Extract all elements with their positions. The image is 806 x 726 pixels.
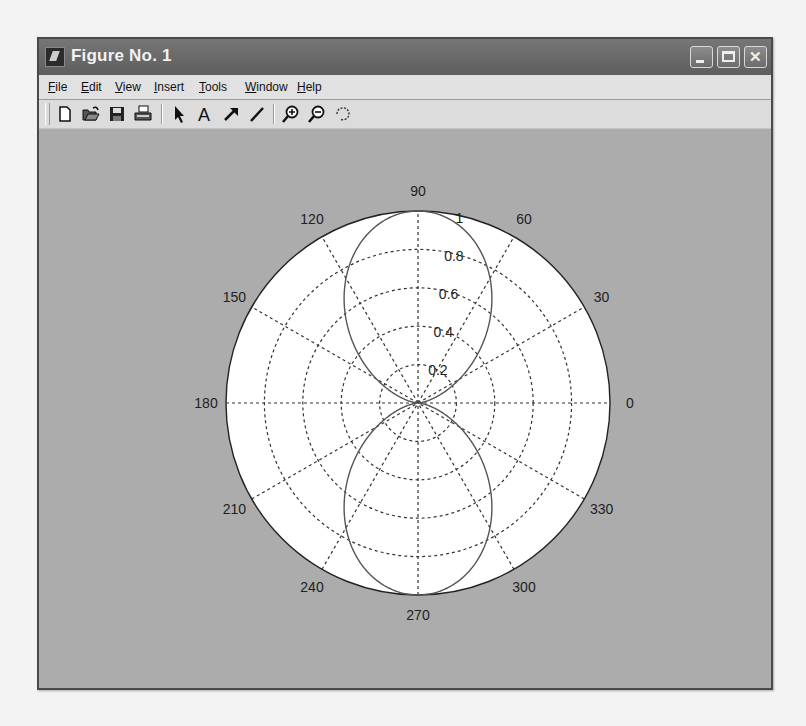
svg-text:A: A [198,105,210,124]
menu-file[interactable]: File [48,80,67,94]
menu-help[interactable]: Help [297,80,322,94]
menu-bar: FileEditViewInsertToolsWindowHelp [39,75,771,100]
toolbar-separator [273,104,275,124]
minimize-button[interactable] [690,46,713,68]
figure-canvas[interactable]: 03060901201501802102402703003300.20.40.6… [39,129,771,688]
angular-tick-label: 270 [406,607,430,623]
maximize-button[interactable] [717,46,740,68]
minimize-icon [696,60,704,63]
title-bar[interactable]: Figure No. 1 ✕ [39,39,771,75]
radial-tick-label: 0.6 [439,286,459,302]
radial-tick-label: 0.4 [434,324,454,340]
menu-edit[interactable]: Edit [81,80,102,94]
radial-tick-label: 0.8 [444,248,464,264]
radial-tick-label: 1 [455,210,463,226]
zoom-out-icon[interactable] [307,104,327,124]
save-icon[interactable] [107,104,127,124]
close-icon: ✕ [745,48,766,66]
angular-tick-label: 120 [300,211,324,227]
menu-tools[interactable]: Tools [199,80,227,94]
angular-tick-label: 30 [594,289,610,305]
insert-text-icon[interactable]: A [195,104,215,124]
maximize-icon [722,51,735,62]
menu-window[interactable]: Window [245,80,288,94]
print-icon[interactable] [133,104,153,124]
insert-arrow-icon[interactable] [221,104,241,124]
toolbar: A [39,100,771,129]
rotate-3d-icon[interactable] [333,104,353,124]
angular-tick-label: 330 [590,501,614,517]
insert-line-icon[interactable] [247,104,267,124]
angular-tick-label: 240 [300,579,324,595]
toolbar-grip[interactable] [45,103,50,125]
matlab-logo-icon [45,47,65,67]
menu-insert[interactable]: Insert [154,80,184,94]
polar-axes[interactable]: 03060901201501802102402703003300.20.40.6… [39,129,771,688]
new-figure-icon[interactable] [55,104,75,124]
open-file-icon[interactable] [81,104,101,124]
figure-window: Figure No. 1 ✕ FileEditViewInsertToolsWi… [37,37,773,690]
window-title: Figure No. 1 [71,46,172,66]
angular-tick-label: 180 [194,395,218,411]
angular-tick-label: 60 [516,211,532,227]
angular-tick-label: 90 [410,183,426,199]
toolbar-separator [161,104,163,124]
menu-view[interactable]: View [115,80,141,94]
close-button[interactable]: ✕ [744,46,767,68]
angular-tick-label: 210 [223,501,247,517]
radial-tick-label: 0.2 [428,362,448,378]
zoom-in-icon[interactable] [281,104,301,124]
angular-tick-label: 150 [223,289,247,305]
edit-plot-arrow-icon[interactable] [169,104,189,124]
angular-tick-label: 0 [626,395,634,411]
angular-tick-label: 300 [512,579,536,595]
